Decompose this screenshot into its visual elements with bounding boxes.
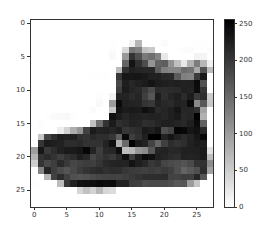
x-tick-label: 15	[127, 211, 136, 219]
pixel-cell	[207, 140, 214, 147]
pixel-cell	[207, 33, 214, 40]
y-tick-mark	[27, 190, 30, 191]
figure: 0510152025 0510152025 050100150200250	[0, 0, 267, 234]
pixel-cell	[207, 40, 214, 47]
pixel-cell	[207, 73, 214, 80]
x-tick-mark	[66, 207, 67, 210]
y-tick-label: 10	[16, 86, 25, 94]
y-tick-mark	[27, 90, 30, 91]
pixel-cell	[207, 167, 214, 174]
colorbar-tick-label: 100	[239, 130, 252, 138]
pixel-cell	[207, 93, 214, 100]
colorbar-tick-mark	[234, 97, 237, 98]
pixel-cell	[207, 107, 214, 114]
y-tick-mark	[27, 23, 30, 24]
pixel-cell	[207, 27, 214, 34]
pixel-cell	[207, 20, 214, 27]
pixel-heatmap	[31, 20, 213, 207]
pixel-cell	[207, 187, 214, 194]
pixel-cell	[207, 160, 214, 167]
colorbar-tick-label: 200	[239, 56, 252, 64]
x-tick-label: 20	[160, 211, 169, 219]
x-tick-mark	[34, 207, 35, 210]
pixel-cell	[207, 174, 214, 181]
y-tick-label: 20	[16, 153, 25, 161]
colorbar-tick-mark	[234, 60, 237, 61]
y-tick-label: 25	[16, 186, 25, 194]
pixel-cell	[207, 147, 214, 154]
pixel-cell	[207, 127, 214, 134]
x-tick-mark	[196, 207, 197, 210]
x-tick-mark	[164, 207, 165, 210]
x-tick-mark	[99, 207, 100, 210]
y-tick-label: 0	[21, 19, 25, 27]
x-tick-label: 25	[192, 211, 201, 219]
colorbar-tick-mark	[234, 23, 237, 24]
x-tick-label: 0	[32, 211, 36, 219]
pixel-cell	[207, 87, 214, 94]
pixel-cell	[207, 200, 214, 207]
pixel-cell	[207, 180, 214, 187]
pixel-cell	[207, 154, 214, 161]
colorbar-tick-label: 0	[239, 203, 243, 211]
colorbar-tick-mark	[234, 133, 237, 134]
y-tick-mark	[27, 156, 30, 157]
pixel-cell	[207, 120, 214, 127]
pixel-cell	[207, 194, 214, 201]
x-tick-label: 10	[95, 211, 104, 219]
colorbar-tick-label: 250	[239, 20, 252, 28]
pixel-cell	[207, 80, 214, 87]
pixel-cell	[207, 134, 214, 141]
pixel-cell	[207, 113, 214, 120]
pixel-cell	[207, 47, 214, 54]
colorbar-tick-label: 150	[239, 93, 252, 101]
colorbar-tick-label: 50	[239, 166, 248, 174]
pixel-cell	[207, 60, 214, 67]
y-tick-label: 5	[21, 53, 25, 61]
pixel-cell	[207, 53, 214, 60]
y-tick-mark	[27, 56, 30, 57]
colorbar	[225, 20, 234, 207]
colorbar-tick-mark	[234, 170, 237, 171]
x-tick-mark	[131, 207, 132, 210]
pixel-cell	[207, 67, 214, 74]
image-axes	[31, 20, 213, 207]
colorbar-tick-mark	[234, 207, 237, 208]
y-tick-label: 15	[16, 120, 25, 128]
y-tick-mark	[27, 123, 30, 124]
x-tick-label: 5	[65, 211, 69, 219]
pixel-cell	[207, 100, 214, 107]
